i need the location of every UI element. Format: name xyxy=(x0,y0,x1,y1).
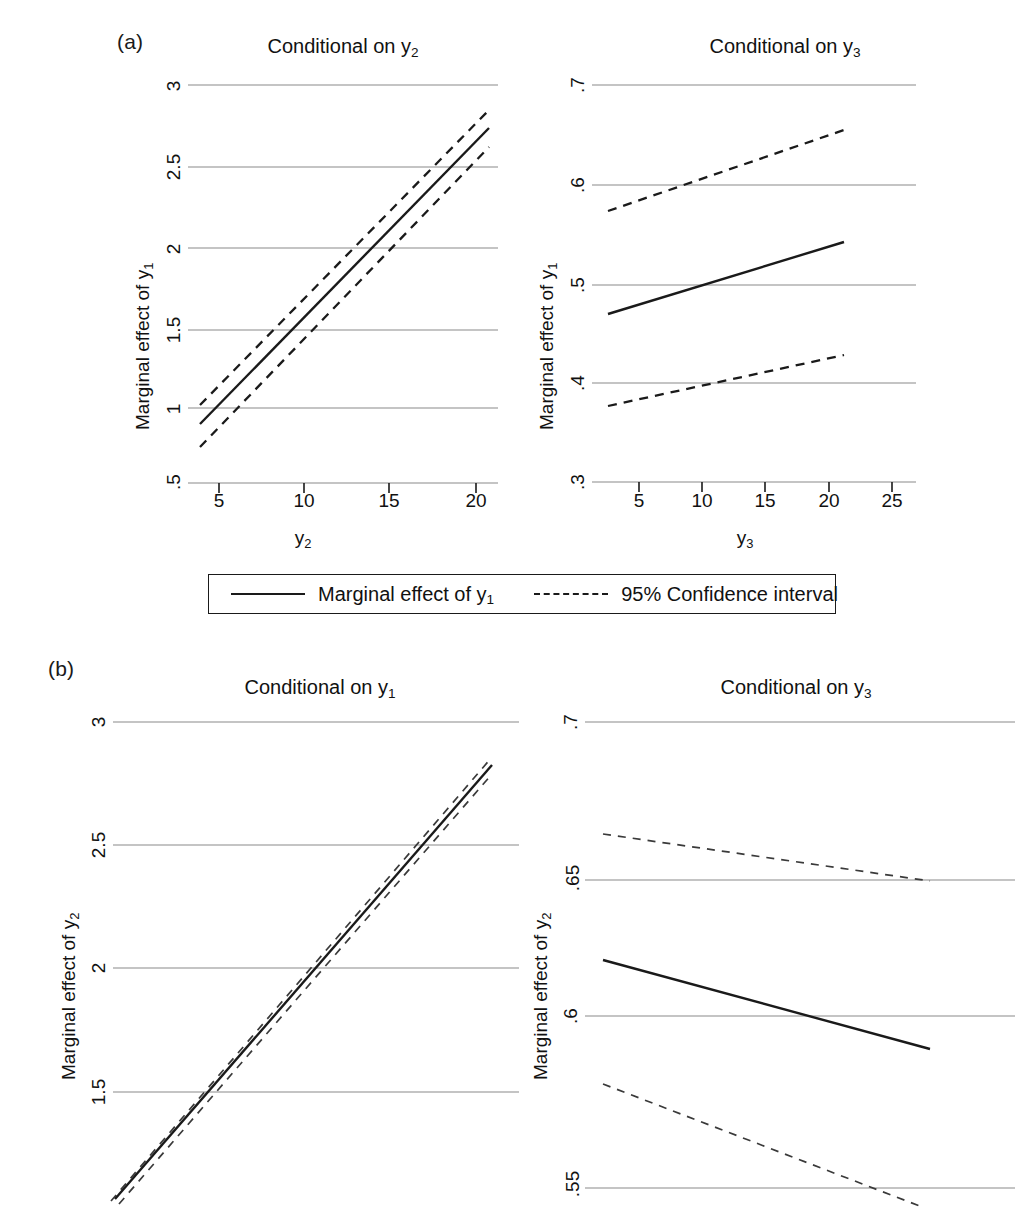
y-tick-a-left-1: 1 xyxy=(163,395,185,423)
x-tick-a-right-20: 20 xyxy=(809,490,849,512)
x-tick-a-right-5: 5 xyxy=(619,490,659,512)
plot-title-a-left: Conditional on y2 xyxy=(178,35,508,58)
x-tick-a-right-15: 15 xyxy=(745,490,785,512)
y-tick-a-left-2: 2 xyxy=(163,235,185,263)
marginal-effect-line xyxy=(200,128,489,424)
x-tick-a-left-10: 10 xyxy=(284,490,324,512)
y-tick-a-right-0p6: .6 xyxy=(567,171,589,199)
y-tick-b-right-0p7: .7 xyxy=(560,708,582,736)
x-tick-a-right-25: 25 xyxy=(872,490,912,512)
legend: Marginal effect of y1 95% Confidence int… xyxy=(208,574,836,614)
y-tick-a-left-2p5: 2.5 xyxy=(163,148,185,186)
ci-lower-line xyxy=(608,355,844,406)
plot-canvas-a-right xyxy=(592,75,916,495)
ci-lower-line xyxy=(603,1084,930,1207)
legend-entry-marginal-effect: Marginal effect of y1 xyxy=(231,583,494,606)
x-axis-title-a-right: y3 xyxy=(725,527,765,549)
y-tick-b-right-0p65: .65 xyxy=(562,858,584,898)
y-tick-b-left-2: 2 xyxy=(88,954,110,982)
y-tick-a-left-0p5: .5 xyxy=(163,466,185,498)
y-tick-b-right-0p6: .6 xyxy=(560,1002,582,1030)
y-tick-a-right-0p3: .3 xyxy=(567,468,589,496)
y-tick-b-left-2p5: 2.5 xyxy=(88,826,110,864)
plot-title-b-right-sub: 3 xyxy=(864,686,872,701)
x-axis-title-a-right-text: y xyxy=(737,527,747,548)
x-tick-a-right-10: 10 xyxy=(682,490,722,512)
plot-title-a-left-sub: 2 xyxy=(411,45,419,60)
legend-label-confidence-interval: 95% Confidence interval xyxy=(621,583,838,606)
marginal-effect-line xyxy=(608,242,844,314)
y-tick-b-left-3: 3 xyxy=(88,708,110,736)
y-axis-title-b-left-text: Marginal effect of y xyxy=(58,920,79,1080)
y-axis-title-b-left-sub: 2 xyxy=(67,913,82,920)
plot-title-a-right-sub: 3 xyxy=(853,45,861,60)
figure-root: (a) Conditional on y2 Marginal effect of… xyxy=(0,0,1023,1207)
y-tick-a-left-1p5: 1.5 xyxy=(163,311,185,349)
y-axis-title-b-right-sub: 2 xyxy=(539,913,554,920)
y-axis-title-b-right: Marginal effect of y2 xyxy=(530,913,552,1080)
plot-title-b-left-sub: 1 xyxy=(388,686,396,701)
ci-upper-line xyxy=(603,834,930,881)
panel-letter-b: (b) xyxy=(48,657,74,681)
y-axis-title-a-right-text: Marginal effect of y xyxy=(536,270,557,430)
legend-entry-confidence-interval: 95% Confidence interval xyxy=(534,583,838,606)
plot-title-a-right-text: Conditional on y xyxy=(710,35,853,57)
y-tick-a-right-0p4: .4 xyxy=(567,369,589,397)
ci-lower-line xyxy=(200,147,489,447)
y-tick-a-right-0p5: .5 xyxy=(567,271,589,299)
y-axis-title-b-right-text: Marginal effect of y xyxy=(530,920,551,1080)
y-tick-a-right-0p7: .7 xyxy=(567,71,589,99)
y-axis-title-a-left: Marginal effect of y1 xyxy=(132,263,154,430)
y-axis-title-a-right-sub: 1 xyxy=(545,263,560,270)
x-tick-a-left-20: 20 xyxy=(456,490,496,512)
ci-lower-line xyxy=(119,774,492,1204)
y-tick-b-left-1p5: 1.5 xyxy=(88,1073,110,1111)
y-axis-title-a-left-sub: 1 xyxy=(141,263,156,270)
y-axis-title-a-left-text: Marginal effect of y xyxy=(132,270,153,430)
y-axis-title-b-left: Marginal effect of y2 xyxy=(58,913,80,1080)
plot-canvas-b-right xyxy=(585,712,1015,1197)
x-tick-a-left-15: 15 xyxy=(369,490,409,512)
plot-canvas-b-left xyxy=(113,712,519,1197)
panel-letter-a: (a) xyxy=(117,30,143,54)
marginal-effect-line xyxy=(115,765,492,1199)
legend-label-marginal-effect-text: Marginal effect of y xyxy=(318,583,487,605)
x-axis-title-a-left-sub: 2 xyxy=(304,536,311,551)
ci-upper-line xyxy=(608,130,844,211)
x-axis-title-a-left-text: y xyxy=(295,527,305,548)
legend-label-marginal-effect-sub: 1 xyxy=(487,592,495,607)
solid-line-swatch-icon xyxy=(231,593,305,595)
plot-title-b-left: Conditional on y1 xyxy=(130,676,510,699)
plot-canvas-a-left xyxy=(188,75,498,495)
legend-label-marginal-effect: Marginal effect of y1 xyxy=(318,583,494,606)
plot-title-a-right: Conditional on y3 xyxy=(620,35,950,58)
y-axis-title-a-right: Marginal effect of y1 xyxy=(536,263,558,430)
plot-title-b-left-text: Conditional on y xyxy=(245,676,388,698)
dashed-line-swatch-icon xyxy=(534,593,608,595)
plot-title-b-right: Conditional on y3 xyxy=(606,676,986,699)
y-tick-a-left-3: 3 xyxy=(163,72,185,100)
x-tick-a-left-5: 5 xyxy=(199,490,239,512)
x-axis-title-a-right-sub: 3 xyxy=(746,536,753,551)
x-axis-title-a-left: y2 xyxy=(283,527,323,549)
marginal-effect-line xyxy=(603,960,930,1049)
y-tick-b-right-0p55: .55 xyxy=(562,1164,584,1204)
plot-title-b-right-text: Conditional on y xyxy=(721,676,864,698)
ci-upper-line xyxy=(200,110,489,405)
ci-upper-line xyxy=(111,757,492,1201)
plot-title-a-left-text: Conditional on y xyxy=(268,35,411,57)
